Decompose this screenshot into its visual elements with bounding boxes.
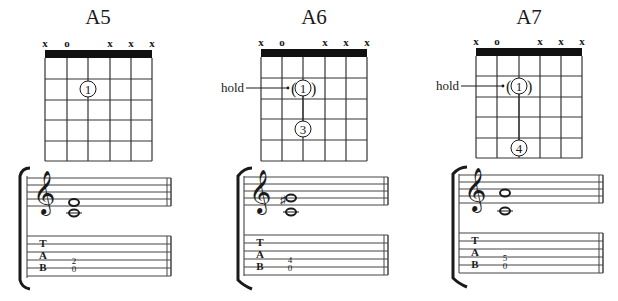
svg-text:(: ( bbox=[506, 78, 511, 96]
string-marker-6: x bbox=[42, 37, 48, 49]
treble-clef-icon: 𝄞 bbox=[33, 171, 55, 216]
fretboard-grid bbox=[476, 48, 582, 158]
string-marker-5: o bbox=[494, 35, 500, 47]
svg-text:1: 1 bbox=[300, 81, 307, 96]
string-marker-1: x bbox=[579, 35, 585, 47]
notation-system: 𝄞 T A B 5 bbox=[453, 167, 603, 287]
string-marker-3: x bbox=[322, 36, 328, 48]
string-marker-6: x bbox=[258, 36, 264, 48]
hold-label: hold bbox=[436, 78, 460, 93]
string-markers: x o x x x bbox=[42, 37, 155, 49]
svg-text:0: 0 bbox=[503, 261, 508, 271]
svg-text:B: B bbox=[256, 260, 264, 272]
svg-text:1: 1 bbox=[85, 82, 92, 97]
finger-dot-1-held: ( 1 ) bbox=[291, 80, 316, 98]
svg-text:3: 3 bbox=[300, 122, 307, 137]
string-marker-2: x bbox=[558, 35, 564, 47]
fretboard-grid bbox=[261, 49, 367, 161]
treble-clef-icon: 𝄞 bbox=[464, 168, 486, 213]
tab-clef: T A B bbox=[256, 236, 264, 272]
chord-a6: A6 x o x x x hold bbox=[221, 5, 388, 289]
string-marker-1: x bbox=[364, 36, 370, 48]
staff-notes bbox=[497, 190, 513, 215]
tab-numbers: 5 0 bbox=[503, 253, 508, 271]
sharp-accidental-icon: ♯ bbox=[280, 193, 286, 207]
svg-text:0: 0 bbox=[72, 264, 77, 274]
hold-label: hold bbox=[221, 80, 245, 95]
fretboard-grid bbox=[45, 50, 152, 161]
string-marker-2: x bbox=[128, 37, 134, 49]
treble-clef-icon: 𝄞 bbox=[249, 170, 271, 215]
chord-a7: A7 x o x x x hold bbox=[436, 5, 603, 287]
string-marker-5: o bbox=[279, 36, 285, 48]
svg-text:4: 4 bbox=[516, 141, 523, 156]
tab-clef: T A B bbox=[471, 234, 479, 270]
nut bbox=[261, 49, 367, 57]
string-marker-3: x bbox=[107, 37, 113, 49]
svg-text:A: A bbox=[39, 249, 47, 261]
hold-arrow-icon bbox=[287, 87, 290, 90]
string-marker-2: x bbox=[343, 36, 349, 48]
hold-annotation: hold bbox=[221, 80, 289, 95]
string-markers: x o x x x bbox=[258, 36, 370, 48]
svg-text:T: T bbox=[471, 234, 479, 246]
finger-dot-1-held: ( 1 ) bbox=[506, 78, 532, 96]
chord-a5: A5 x o x x x 1 bbox=[20, 5, 171, 289]
svg-text:): ) bbox=[527, 78, 532, 96]
string-marker-5: o bbox=[64, 37, 70, 49]
notation-system: 𝄞 T A B 2 bbox=[20, 168, 171, 289]
svg-text:A: A bbox=[256, 248, 264, 260]
chord-title: A6 bbox=[301, 5, 327, 29]
finger-dot-4: 4 bbox=[511, 140, 527, 156]
hold-annotation: hold bbox=[436, 78, 504, 93]
string-marker-3: x bbox=[537, 35, 543, 47]
hold-arrow-icon bbox=[502, 85, 505, 88]
string-markers: x o x x x bbox=[473, 35, 585, 47]
tab-numbers: 4 0 bbox=[288, 255, 293, 273]
finger-dot-1: 1 bbox=[80, 81, 96, 97]
svg-text:B: B bbox=[471, 258, 479, 270]
tab-clef: T A B bbox=[39, 237, 47, 273]
tab-staff bbox=[27, 236, 171, 276]
svg-text:T: T bbox=[39, 237, 47, 249]
svg-text:1: 1 bbox=[516, 79, 523, 94]
svg-text:): ) bbox=[311, 80, 316, 98]
chord-title: A5 bbox=[85, 5, 111, 29]
tab-staff bbox=[459, 233, 603, 273]
system-bracket bbox=[20, 168, 30, 289]
svg-text:B: B bbox=[39, 261, 47, 273]
staff-notes bbox=[66, 199, 82, 216]
tab-numbers: 2 0 bbox=[72, 256, 77, 274]
nut bbox=[476, 48, 582, 56]
string-marker-1: x bbox=[149, 37, 155, 49]
finger-dot-3: 3 bbox=[295, 121, 311, 137]
chord-title: A7 bbox=[516, 5, 542, 29]
tab-staff bbox=[244, 235, 388, 275]
notation-system: 𝄞 ♯ T A B 4 bbox=[238, 168, 388, 289]
svg-text:A: A bbox=[471, 246, 479, 258]
string-marker-6: x bbox=[473, 35, 479, 47]
svg-text:T: T bbox=[256, 236, 264, 248]
chord-chart-page: A5 x o x x x 1 bbox=[0, 0, 618, 301]
nut bbox=[45, 50, 152, 58]
svg-text:0: 0 bbox=[288, 263, 293, 273]
